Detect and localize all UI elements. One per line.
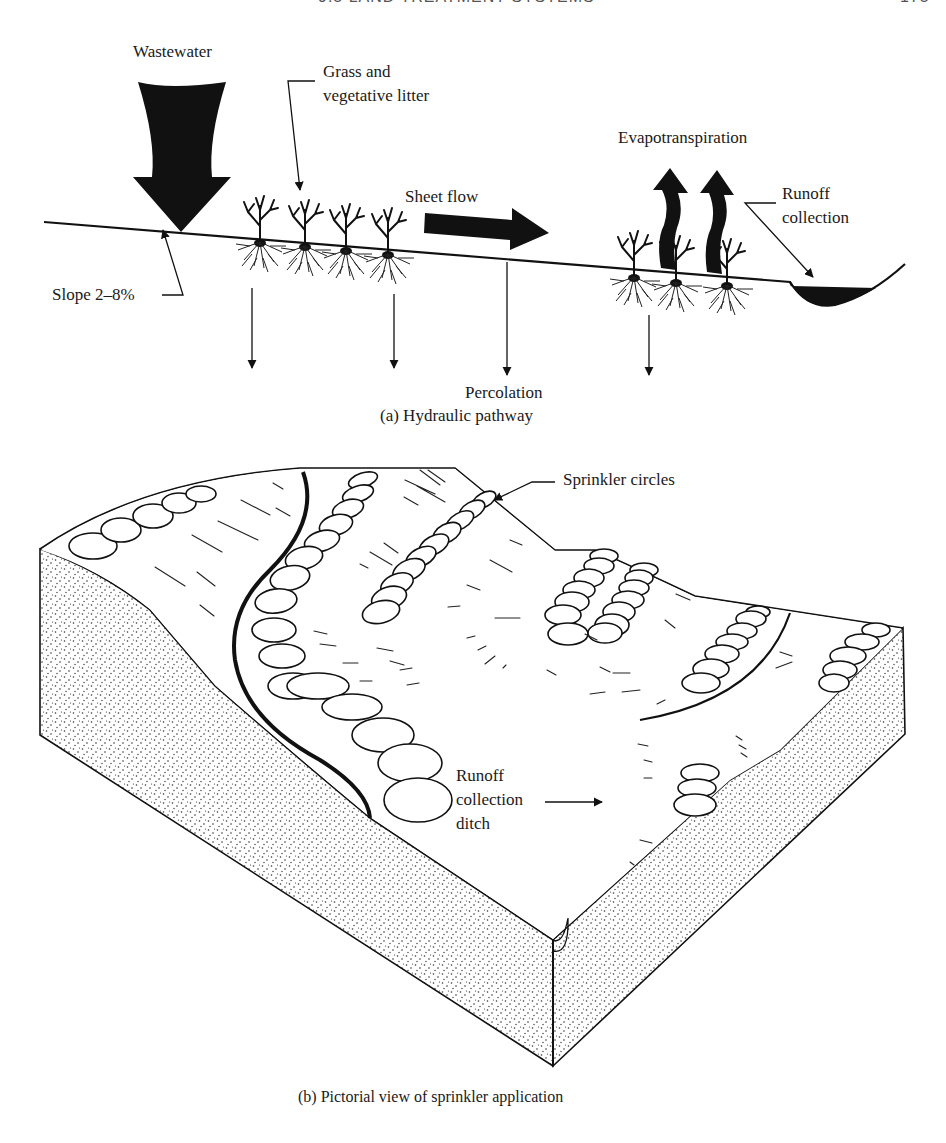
sprinkler-circles-label: Sprinkler circles bbox=[563, 470, 675, 490]
ditch-label-line2: collection bbox=[456, 790, 523, 810]
ditch-label-line1: Runoff bbox=[456, 766, 504, 786]
ditch-label-line3: ditch bbox=[456, 814, 490, 834]
panel-b-caption: (b) Pictorial view of sprinkler applicat… bbox=[298, 1088, 563, 1106]
sprinkler-application-block-diagram bbox=[0, 0, 946, 1143]
sprinkler-circles-leader bbox=[494, 482, 555, 500]
